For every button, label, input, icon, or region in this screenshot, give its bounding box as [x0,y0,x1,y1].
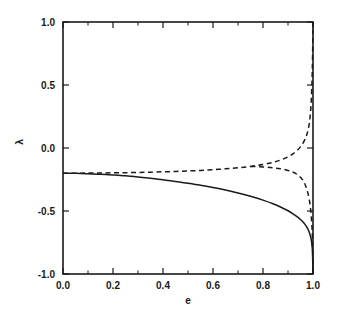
y-tick-label: 0.5 [41,80,55,91]
x-tick-label: 0.0 [56,280,70,291]
x-tick-label: 0.6 [206,280,220,291]
axis-ticks-group [63,22,313,274]
y-axis-title: λ [14,139,25,145]
axis-labels-group: 0.00.20.40.60.81.0-1.0-0.50.00.51.0eλ [14,17,320,307]
x-tick-label: 0.4 [156,280,170,291]
y-tick-label: -1.0 [38,269,56,280]
series-dashed-lower-branch [251,166,314,274]
plot-frame-rect [63,22,313,274]
chart-plot: 0.00.20.40.60.81.0-1.0-0.50.00.51.0eλ [0,0,337,312]
x-tick-label: 0.2 [106,280,120,291]
y-tick-label: 1.0 [41,17,55,28]
plot-frame [63,22,313,274]
data-series-group [63,22,313,274]
y-tick-label: 0.0 [41,143,55,154]
x-axis-title: e [185,295,191,306]
figure-container: 0.00.20.40.60.81.0-1.0-0.50.00.51.0eλ [0,0,337,312]
series-dashed-upper-branch [63,22,313,173]
x-tick-label: 0.8 [256,280,270,291]
y-tick-label: -0.5 [38,206,56,217]
x-tick-label: 1.0 [306,280,320,291]
series-solid-branch [63,173,313,274]
